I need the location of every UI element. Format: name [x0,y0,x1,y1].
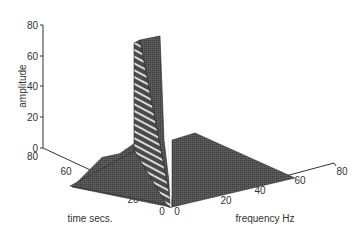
time-axis-label: time secs. [67,213,112,224]
z-tick-60: 60 [27,51,39,62]
freq-tick-80: 80 [336,166,348,177]
time-tick-80: 80 [27,151,39,162]
surface [70,36,295,207]
freq-tick-0: 0 [174,206,180,217]
z-tick-40: 40 [27,81,39,92]
surface-plot: 80 60 40 20 0 amplitude 80 60 40 20 0 ti… [0,0,364,236]
freq-tick-60: 60 [294,175,306,186]
time-tick-60: 60 [60,166,72,177]
freq-tick-20: 20 [220,195,232,206]
z-axis: 80 60 40 20 0 amplitude [17,20,43,154]
time-tick-0: 0 [159,206,165,217]
z-tick-80: 80 [27,20,39,31]
frequency-axis-label: frequency Hz [236,213,295,224]
z-axis-label: amplitude [17,64,28,108]
z-tick-20: 20 [27,112,39,123]
